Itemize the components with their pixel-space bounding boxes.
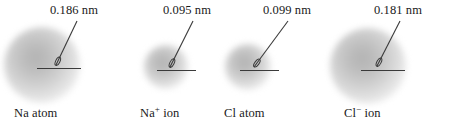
species-kind-cl-ion: ion [361, 106, 381, 120]
electron-cloud-cl-atom [225, 44, 271, 90]
species-label-cl-ion: Cl− ion [344, 106, 381, 121]
species-kind-na-atom: atom [29, 106, 58, 120]
species-symbol-cl-atom: Cl [224, 106, 236, 120]
species-symbol-cl-ion: Cl [344, 106, 356, 120]
radius-line-cl-ion [361, 70, 405, 71]
species-label-na-ion: Na+ ion [140, 106, 179, 121]
measurement-label-cl-ion: 0.181 nm [374, 3, 422, 18]
species-symbol-na-ion: Na [140, 106, 155, 120]
electron-cloud-na-atom [4, 27, 80, 103]
electron-cloud-na-ion [144, 45, 188, 89]
species-kind-cl-atom: atom [236, 106, 265, 120]
measurement-label-na-ion: 0.095 nm [163, 3, 211, 18]
radius-line-na-atom [37, 68, 81, 69]
species-symbol-na-atom: Na [14, 106, 29, 120]
electron-cloud-cl-ion [330, 28, 406, 104]
species-label-cl-atom: Cl atom [224, 106, 265, 121]
species-kind-na-ion: ion [160, 106, 180, 120]
measurement-label-cl-atom: 0.099 nm [263, 3, 311, 18]
radius-line-cl-atom [240, 70, 279, 71]
measurement-label-na-atom: 0.186 nm [50, 3, 98, 18]
species-label-na-atom: Na atom [14, 106, 57, 121]
radius-line-na-ion [157, 70, 196, 71]
atom-ion-size-diagram: 0.186 nmNa atom0.095 nmNa+ ion0.099 nmCl… [0, 0, 461, 135]
